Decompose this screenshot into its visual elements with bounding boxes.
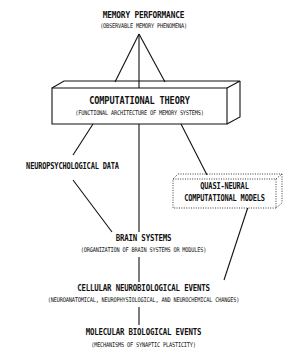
molecular-events-subtitle: (MECHANISMS OF SYNAPTIC PLASTICITY) <box>26 341 261 349</box>
computational-theory-subtitle: (FUNCTIONAL ARCHITECTURE OF MEMORY SYSTE… <box>68 109 212 117</box>
memory-performance-title: MEMORY PERFORMANCE <box>26 9 261 20</box>
quasi-neural-title-line1: QUASI-NEURAL <box>182 181 266 191</box>
brain-systems-title: BRAIN SYSTEMS <box>26 233 261 243</box>
cellular-events-title: CELLULAR NEUROBIOLOGICAL EVENTS <box>26 283 261 293</box>
cellular-events-subtitle: (NEUROANATOMICAL, NEUROPHYSIOLOGICAL, AN… <box>26 296 261 304</box>
connector-lines <box>0 0 287 359</box>
molecular-events-title: MOLECULAR BIOLOGICAL EVENTS <box>26 327 261 337</box>
brain-systems-subtitle: (ORGANIZATION OF BRAIN SYSTEMS OR MODULE… <box>26 246 261 254</box>
neuropsychological-data-label: NEUROPSYCHOLOGICAL DATA <box>13 161 132 171</box>
quasi-neural-title-line2: COMPUTATIONAL MODELS <box>182 193 266 203</box>
computational-theory-title: COMPUTATIONAL THEORY <box>68 94 212 106</box>
memory-performance-subtitle: (OBSERVABLE MEMORY PHENOMENA) <box>26 22 261 30</box>
